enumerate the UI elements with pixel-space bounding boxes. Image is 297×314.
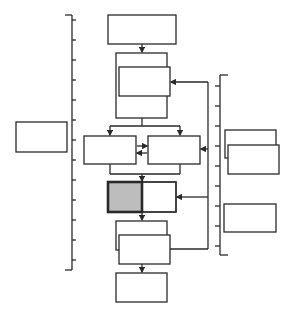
- stack2-front-box: [119, 235, 170, 264]
- flowchart-diagram: [0, 0, 297, 314]
- bidirectional-arrows: [137, 146, 147, 153]
- feedback-loop: [170, 82, 208, 249]
- shaded-box: [108, 182, 176, 212]
- top-box: [108, 15, 176, 44]
- stack1-front-box: [119, 67, 170, 96]
- split-left-box: [84, 136, 136, 164]
- split-connector: [110, 118, 180, 135]
- right-lower-box: [224, 204, 276, 232]
- right-ruler-ticks: [215, 86, 220, 246]
- left-box: [16, 122, 67, 152]
- bottom-box: [116, 273, 167, 302]
- split-right-box: [148, 136, 200, 164]
- merge-connector: [110, 164, 180, 181]
- right-stack-front-box: [228, 145, 279, 174]
